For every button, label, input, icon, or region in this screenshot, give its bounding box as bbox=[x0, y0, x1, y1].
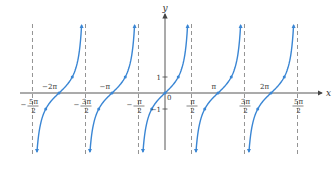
arrow-down-icon bbox=[141, 149, 145, 153]
y-tick-label: −1 bbox=[151, 106, 161, 114]
x-tick-numerator: π bbox=[190, 98, 195, 106]
marked-point bbox=[97, 108, 100, 111]
marked-point bbox=[110, 92, 113, 95]
tangent-graph: 5π2−3π2−π2−π23π25π2−2π−ππ2π01−1xy bbox=[0, 0, 334, 170]
x-tick-label: π bbox=[211, 83, 216, 91]
tangent-branch bbox=[90, 25, 135, 152]
marked-point bbox=[269, 92, 272, 95]
marked-point bbox=[71, 76, 74, 79]
arrow-up-icon bbox=[239, 24, 243, 28]
x-tick-numerator: 5π bbox=[29, 98, 38, 106]
arrow-up-icon bbox=[133, 24, 137, 28]
marked-point bbox=[283, 76, 286, 79]
x-tick-denominator: 2 bbox=[84, 107, 88, 115]
tangent-branch bbox=[196, 25, 241, 152]
x-tick-denominator: 2 bbox=[31, 107, 35, 115]
x-tick-numerator: π bbox=[137, 98, 142, 106]
marked-point bbox=[256, 108, 259, 111]
origin-label: 0 bbox=[167, 94, 171, 102]
marked-point bbox=[124, 76, 127, 79]
arrow-up-icon bbox=[292, 24, 296, 28]
x-tick-sign: − bbox=[21, 101, 27, 109]
x-tick-sign: − bbox=[127, 101, 133, 109]
arrow-down-icon bbox=[194, 149, 198, 153]
marked-point bbox=[217, 92, 220, 95]
x-tick-label: 2π bbox=[260, 83, 269, 91]
x-tick-numerator: 3π bbox=[241, 98, 250, 106]
arrow-up-icon bbox=[80, 24, 84, 28]
x-tick-numerator: 3π bbox=[82, 98, 91, 106]
marked-point bbox=[230, 76, 233, 79]
x-tick-numerator: 5π bbox=[294, 98, 303, 106]
x-tick-label: −2π bbox=[42, 83, 57, 91]
marked-point bbox=[58, 92, 61, 95]
x-tick-label: −π bbox=[100, 83, 111, 91]
marked-point bbox=[177, 76, 180, 79]
axes bbox=[20, 14, 322, 150]
x-tick-sign: − bbox=[74, 101, 80, 109]
y-tick-label: 1 bbox=[157, 74, 161, 82]
y-axis-label: y bbox=[161, 3, 168, 13]
marked-point bbox=[44, 108, 47, 111]
x-tick-denominator: 2 bbox=[137, 107, 141, 115]
tangent-branch bbox=[249, 25, 294, 152]
x-tick-denominator: 2 bbox=[190, 107, 194, 115]
tick-labels: 5π2−3π2−π2−π23π25π2−2π−ππ2π01−1xy bbox=[21, 3, 332, 115]
x-tick-denominator: 2 bbox=[243, 107, 247, 115]
x-axis-label: x bbox=[326, 88, 331, 98]
x-tick-denominator: 2 bbox=[296, 107, 300, 115]
arrow-down-icon bbox=[247, 149, 251, 153]
arrow-down-icon bbox=[88, 149, 92, 153]
arrow-up-icon bbox=[186, 24, 190, 28]
arrow-down-icon bbox=[35, 149, 39, 153]
marked-point bbox=[203, 108, 206, 111]
